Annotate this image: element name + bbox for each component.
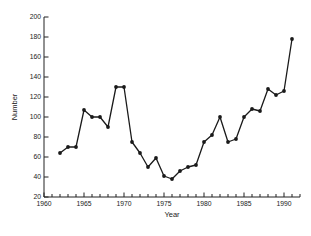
- data-point: [138, 151, 142, 155]
- x-tick-label: 1985: [236, 200, 251, 207]
- data-point: [202, 140, 206, 144]
- data-point: [250, 107, 254, 111]
- data-point: [122, 85, 126, 89]
- y-tick-label: 200: [30, 13, 42, 20]
- data-point: [290, 37, 294, 41]
- x-tick-label: 1975: [156, 200, 171, 207]
- x-axis-title: Year: [164, 210, 180, 219]
- data-line: [60, 39, 292, 179]
- data-point: [258, 109, 262, 113]
- y-tick-label: 100: [30, 113, 42, 120]
- data-point: [106, 125, 110, 129]
- data-point: [74, 145, 78, 149]
- data-point: [66, 145, 70, 149]
- y-tick-label: 120: [30, 93, 42, 100]
- y-tick-label: 140: [30, 73, 42, 80]
- y-tick-label: 180: [30, 33, 42, 40]
- data-point: [186, 165, 190, 169]
- data-point: [154, 156, 158, 160]
- x-tick-label: 1980: [196, 200, 211, 207]
- data-point: [130, 140, 134, 144]
- data-point: [266, 87, 270, 91]
- plot-area: 2040608010012014016018020019601965197019…: [30, 13, 300, 207]
- data-point: [178, 169, 182, 173]
- x-tick-label: 1970: [116, 200, 131, 207]
- data-point: [194, 163, 198, 167]
- data-point: [90, 115, 94, 119]
- data-point: [218, 115, 222, 119]
- data-point: [114, 85, 118, 89]
- data-point: [274, 93, 278, 97]
- x-tick-label: 1960: [36, 200, 51, 207]
- data-point: [242, 115, 246, 119]
- data-point: [82, 108, 86, 112]
- y-tick-label: 60: [33, 153, 41, 160]
- y-tick-label: 160: [30, 53, 42, 60]
- data-point: [162, 174, 166, 178]
- y-tick-label: 40: [33, 173, 41, 180]
- x-tick-label: 1990: [276, 200, 291, 207]
- line-chart-figure: 2040608010012014016018020019601965197019…: [0, 0, 311, 236]
- data-point: [282, 89, 286, 93]
- data-point: [58, 151, 62, 155]
- y-tick-label: 80: [33, 133, 41, 140]
- chart-canvas: 2040608010012014016018020019601965197019…: [0, 0, 311, 236]
- data-point: [146, 165, 150, 169]
- y-axis-title: Number: [10, 93, 19, 120]
- data-point: [226, 140, 230, 144]
- x-tick-label: 1965: [76, 200, 91, 207]
- data-point: [210, 133, 214, 137]
- data-point: [170, 177, 174, 181]
- data-point: [234, 137, 238, 141]
- data-point: [98, 115, 102, 119]
